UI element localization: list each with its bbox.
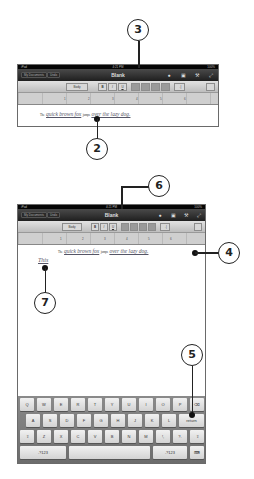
underline-button[interactable]: U	[118, 83, 127, 91]
document-canvas[interactable]: The quick brown fox jumps over the lazy …	[18, 105, 218, 126]
tab-button[interactable]: →|	[160, 223, 170, 231]
ruler-mark: 3	[112, 97, 114, 101]
ruler[interactable]: 1 2 3 4 5 6	[18, 233, 205, 245]
align-right-button[interactable]	[139, 223, 147, 231]
ruler-mark: 1	[60, 237, 62, 241]
key-q[interactable]: Q	[20, 398, 34, 411]
text-jumps: jumps	[101, 250, 108, 254]
undo-button[interactable]: Undo	[47, 72, 60, 78]
key-u[interactable]: U	[122, 398, 136, 411]
ruler-mark: 4	[136, 97, 138, 101]
ruler-mark: 5	[160, 97, 162, 101]
key-j[interactable]: J	[128, 414, 142, 427]
paragraph-style-button[interactable]: Body	[66, 83, 88, 91]
key-a[interactable]: A	[26, 414, 40, 427]
format-toolbar: Body B I U →|	[18, 81, 218, 93]
key-t[interactable]: T	[88, 398, 102, 411]
format-toolbar: Body B I U →|	[18, 221, 205, 233]
document-title: Blank	[111, 71, 125, 79]
callout-4-leader	[195, 252, 219, 254]
align-center-button[interactable]	[130, 223, 138, 231]
underline-button[interactable]: U	[109, 223, 117, 231]
key-z[interactable]: Z	[37, 430, 51, 443]
settings-button[interactable]	[206, 83, 215, 91]
media-icon[interactable]: ▣	[180, 72, 186, 78]
text-quick-brown-fox: quick brown fox	[64, 248, 99, 254]
key-h[interactable]: H	[111, 414, 125, 427]
info-icon[interactable]: ●	[157, 212, 163, 218]
callout-6-leader-horizontal	[121, 186, 149, 188]
media-icon[interactable]: ▣	[170, 212, 176, 218]
bold-button[interactable]: B	[91, 223, 99, 231]
key-l[interactable]: L	[162, 414, 176, 427]
fullscreen-icon[interactable]: ⤢	[196, 212, 202, 218]
italic-button[interactable]: I	[100, 223, 108, 231]
key-d[interactable]: D	[60, 414, 74, 427]
paragraph-style-button[interactable]: Body	[62, 223, 82, 231]
text-jumps: jumps	[83, 113, 90, 117]
key-w[interactable]: W	[37, 398, 51, 411]
key-g[interactable]: G	[94, 414, 108, 427]
shift-key-left[interactable]: ⇧	[20, 430, 34, 443]
italic-button[interactable]: I	[108, 83, 117, 91]
my-documents-button[interactable]: My Documents	[21, 212, 47, 218]
key-m[interactable]: M	[139, 430, 153, 443]
key-e[interactable]: E	[54, 398, 68, 411]
key-x[interactable]: X	[54, 430, 68, 443]
undo-button[interactable]: Undo	[47, 212, 60, 218]
key-s[interactable]: S	[43, 414, 57, 427]
settings-button[interactable]	[194, 223, 202, 231]
ruler-mark: 3	[104, 237, 106, 241]
ruler-mark: 6	[184, 97, 186, 101]
callout-2: 2	[86, 138, 108, 160]
callout-7: 7	[34, 292, 56, 314]
key-c[interactable]: C	[71, 430, 85, 443]
align-left-button[interactable]	[131, 83, 140, 91]
key-b[interactable]: B	[105, 430, 119, 443]
justify-button[interactable]	[148, 223, 156, 231]
key-r[interactable]: R	[71, 398, 85, 411]
bold-button[interactable]: B	[98, 83, 107, 91]
key-n[interactable]: N	[122, 430, 136, 443]
key-k[interactable]: K	[145, 414, 159, 427]
align-center-button[interactable]	[141, 83, 150, 91]
document-text-line[interactable]: The quick brown fox jumps over the lazy …	[40, 111, 130, 117]
align-right-button[interactable]	[151, 83, 160, 91]
typed-text[interactable]: This	[38, 257, 48, 263]
shift-key-right[interactable]: ⇧	[190, 430, 204, 443]
ruler-mark: 2	[82, 237, 84, 241]
numbers-key-left[interactable]: .?123	[20, 446, 66, 459]
hide-keyboard-key[interactable]: ⌨	[190, 446, 204, 459]
key-y[interactable]: Y	[105, 398, 119, 411]
ruler-mark: 2	[88, 97, 90, 101]
callout-4: 4	[218, 242, 240, 264]
callout-5: 5	[181, 344, 203, 366]
align-left-button[interactable]	[121, 223, 129, 231]
ipad-screenshot-before: iPad 4:21 PM 100% My Documents Undo Blan…	[17, 64, 219, 127]
text-quick-brown-fox: quick brown fox	[46, 111, 81, 117]
key-exclaim-comma[interactable]: !,	[156, 430, 170, 443]
key-p[interactable]: P	[173, 398, 187, 411]
key-v[interactable]: V	[88, 430, 102, 443]
document-text-line[interactable]: The quick brown fox jumps over the lazy …	[58, 248, 148, 254]
ruler-mark: 6	[170, 237, 172, 241]
justify-button[interactable]	[161, 83, 170, 91]
key-question-period[interactable]: ?.	[173, 430, 187, 443]
key-i[interactable]: I	[139, 398, 153, 411]
key-o[interactable]: O	[156, 398, 170, 411]
key-f[interactable]: F	[77, 414, 91, 427]
ruler-mark: 1	[64, 97, 66, 101]
my-documents-button[interactable]: My Documents	[21, 72, 47, 78]
fullscreen-icon[interactable]: ⤢	[208, 72, 214, 78]
callout-5-leader	[192, 366, 194, 414]
nav-bar: My Documents Undo Blank ● ▣ ⚒ ⤢	[18, 69, 218, 81]
tools-icon[interactable]: ⚒	[183, 212, 189, 218]
tab-button[interactable]: →|	[174, 83, 185, 91]
callout-6: 6	[148, 175, 170, 197]
space-bar[interactable]	[69, 446, 150, 459]
tools-icon[interactable]: ⚒	[194, 72, 200, 78]
numbers-key-right[interactable]: .?123	[153, 446, 187, 459]
info-icon[interactable]: ●	[166, 72, 172, 78]
ruler[interactable]: 1 2 3 4 5 6	[18, 93, 218, 105]
ruler-mark: 5	[148, 237, 150, 241]
